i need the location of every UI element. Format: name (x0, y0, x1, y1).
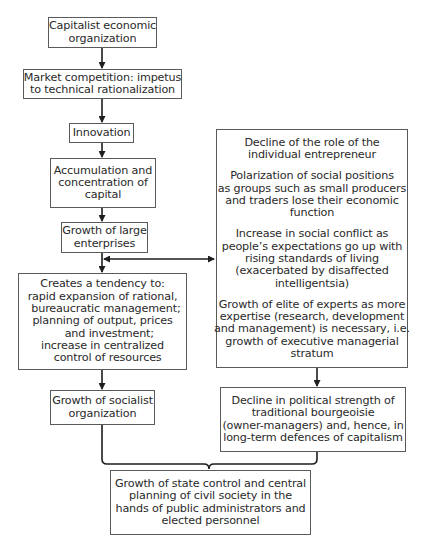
paragraph-entrepreneur-decline: Decline of the role of the individual en… (244, 137, 379, 162)
node-text: organization (69, 408, 137, 420)
node-market-competition: Market competition: impetus to technical… (23, 69, 182, 99)
node-text: traditional bourgeoisie (252, 407, 375, 419)
node-growth-of-large-enterprises: Growth of large enterprises (61, 222, 148, 253)
node-text: Capitalist economic (49, 20, 156, 32)
node-text: to technical rationalization (30, 84, 175, 96)
node-decline-of-bourgeoisie: Decline in political strength of traditi… (220, 387, 406, 452)
node-text: hands of public administrators and (115, 503, 305, 515)
node-text: elected personnel (162, 515, 260, 527)
node-text: function (218, 207, 406, 219)
node-text: intelligentsia) (222, 278, 403, 290)
node-text: capital (85, 189, 122, 201)
node-text: (exacerbated by disaffected (222, 265, 403, 277)
node-text: planning of civil society in the (129, 490, 292, 502)
paragraph-elite-of-experts: Growth of elite of experts as more exper… (214, 299, 410, 360)
paragraph-polarization: Polarization of social positions as grou… (218, 170, 406, 219)
node-text: control of resources (43, 352, 161, 364)
node-text: (owner-managers) and, hence, in (222, 420, 403, 432)
node-text: and management) is necessary, i.e. (214, 323, 410, 335)
node-text: planning of output, prices (32, 315, 172, 327)
node-text: Creates a tendency to: (40, 278, 164, 290)
node-text: Increase in social conflict as (222, 228, 403, 240)
node-text: Innovation (73, 127, 131, 139)
node-text: organization (69, 33, 137, 45)
node-text: stratum (214, 348, 410, 360)
node-growth-of-socialist-organization: Growth of socialist organization (50, 390, 155, 425)
node-text: Accumulation and (54, 165, 152, 177)
node-creates-tendency: Creates a tendency to: rapid expansion o… (18, 273, 187, 370)
node-social-consequences: Decline of the role of the individual en… (216, 129, 408, 368)
node-text: enterprises (74, 238, 136, 250)
node-text: Growth of large (62, 225, 147, 237)
node-text: as groups such as small producers (218, 183, 406, 195)
node-text: Polarization of social positions (218, 170, 406, 182)
node-innovation: Innovation (69, 123, 134, 143)
node-text: individual entrepreneur (244, 149, 379, 161)
node-text: Growth of socialist (52, 395, 153, 407)
node-text: long-term defences of capitalism (223, 432, 403, 444)
node-growth-of-state-control: Growth of state control and central plan… (110, 470, 311, 535)
node-accumulation-of-capital: Accumulation and concentration of capita… (50, 158, 156, 208)
paragraph-social-conflict: Increase in social conflict as people’s … (222, 228, 403, 289)
node-capitalist-economic-organization: Capitalist economic organization (48, 17, 157, 48)
